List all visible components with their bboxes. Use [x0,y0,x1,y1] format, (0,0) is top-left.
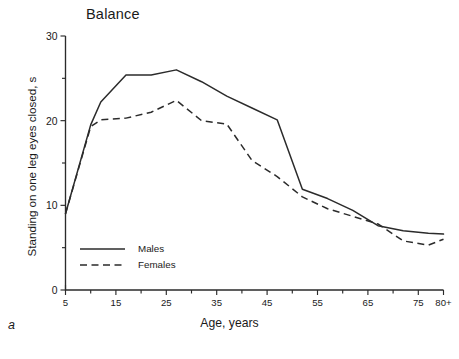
y-tick-label: 10 [36,200,58,211]
x-tick-label: 15 [111,297,122,308]
data-series [66,70,444,245]
series-line-females [66,100,444,245]
legend-label-males: Males [138,243,164,254]
legend-label-females: Females [138,259,176,270]
y-tick-label: 20 [36,115,58,126]
x-tick-label: 80+ [435,297,451,308]
x-tick-label: 5 [63,297,68,308]
plot-area [0,0,459,359]
series-line-males [66,70,444,234]
x-tick-label: 25 [161,297,172,308]
y-tick-label: 0 [36,285,58,296]
y-axis-label: Standing on one leg eyes closed, s [25,62,38,272]
x-tick-label: 75 [413,297,424,308]
axis-lines [66,36,444,290]
x-tick-label: 55 [312,297,323,308]
x-tick-label: 45 [262,297,273,308]
x-tick-label: 65 [363,297,374,308]
y-tick-label: 30 [36,31,58,42]
x-tick-label: 35 [211,297,222,308]
balance-chart-figure: Balance a Standing on one leg eyes close… [0,0,459,359]
axes [61,36,444,295]
legend-swatches [80,249,125,265]
chart-title: Balance [86,6,140,22]
x-axis-label: Age, years [0,316,459,330]
